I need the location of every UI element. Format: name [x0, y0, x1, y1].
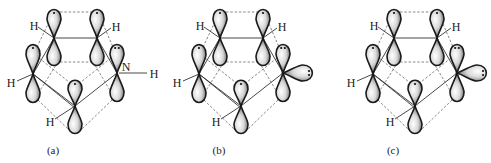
- unpaired-electron-dot: [32, 47, 34, 49]
- panel-label: (c): [387, 144, 400, 157]
- unpaired-electron-dot: [74, 83, 76, 85]
- electron-pair-dot: [482, 74, 484, 76]
- p-orbital-bottom-lobe: [90, 38, 104, 66]
- heteroatom-label: N: [122, 60, 131, 74]
- p-orbital-left: [192, 45, 206, 103]
- electron-pair-dot: [482, 70, 484, 72]
- hydrogen-label-bottom: H: [46, 115, 55, 129]
- electron-pair-dot: [284, 47, 286, 49]
- sp2-lone-pair-orbital: [457, 65, 486, 81]
- p-orbital-top-lobe: [450, 45, 464, 73]
- unpaired-electron-dot: [53, 12, 55, 14]
- p-orbital-bottom-lobe: [256, 38, 270, 66]
- hydrogen-label-bottom: H: [386, 115, 395, 129]
- unpaired-electron-dot: [436, 12, 438, 14]
- hydrogen-label-top-left: H: [370, 19, 379, 33]
- overlap-dash: [379, 62, 398, 92]
- hydrogen-label-top-right: H: [112, 20, 121, 34]
- p-orbital-top-right: [90, 10, 104, 66]
- overlap-dash: [39, 62, 58, 92]
- overlap-dash: [93, 62, 111, 92]
- sp2-lobe: [457, 65, 486, 81]
- electron-pair-dot: [458, 47, 460, 49]
- hydrogen-label-left: H: [347, 76, 356, 90]
- electron-pair-dot: [308, 70, 310, 72]
- electron-pair-dot: [114, 47, 116, 49]
- electron-pair-dot: [454, 47, 456, 49]
- unpaired-electron-dot: [262, 12, 264, 14]
- electron-pair-dot: [118, 47, 120, 49]
- panel-b: HHHH(b): [173, 10, 313, 157]
- p-orbital-bottom: [234, 80, 248, 133]
- p-orbital-bottom-lobe: [234, 106, 248, 134]
- p-orbital-top-right: [430, 10, 444, 66]
- hydrogen-label-top-right: H: [452, 20, 461, 34]
- electron-pair-dot: [308, 74, 310, 76]
- panel-label: (b): [213, 144, 226, 157]
- unpaired-electron-dot: [219, 12, 221, 14]
- p-orbital-top-left: [213, 10, 227, 66]
- unpaired-electron-dot: [96, 12, 98, 14]
- n-hydrogen-label: H: [150, 67, 159, 81]
- unpaired-electron-dot: [198, 47, 200, 49]
- unpaired-electron-dot: [372, 47, 374, 49]
- sp2-lobe: [283, 65, 312, 81]
- p-orbital-top-left: [387, 10, 401, 66]
- p-orbital-bottom-lobe: [47, 38, 61, 66]
- p-orbital-top-left: [47, 10, 61, 66]
- hydrogen-label-top-left: H: [30, 19, 39, 33]
- p-orbital-left: [26, 45, 40, 103]
- unpaired-electron-dot: [240, 83, 242, 85]
- overlap-dash: [433, 62, 451, 92]
- overlap-dash: [205, 62, 224, 92]
- hydrogen-label-bottom: H: [212, 115, 221, 129]
- overlap-dash: [421, 100, 452, 130]
- overlap-dash: [247, 100, 278, 130]
- sp2-lone-pair-orbital: [283, 65, 312, 81]
- p-orbital-bottom-lobe: [68, 106, 82, 134]
- panel-a: NHHHHH(a): [7, 10, 159, 157]
- overlap-dash: [259, 62, 277, 92]
- hydrogen-label-top-left: H: [196, 19, 205, 33]
- panel-c: HHHH(c): [347, 10, 487, 157]
- overlap-dash: [81, 100, 112, 130]
- p-orbital-bottom-lobe: [213, 38, 227, 66]
- p-orbital-bottom-lobe: [430, 38, 444, 66]
- orbital-diagram-figure: NHHHHH(a)HHHH(b)HHHH(c): [0, 0, 491, 163]
- p-orbital-bottom-lobe: [387, 38, 401, 66]
- panel-label: (a): [47, 144, 60, 157]
- p-orbital-bottom: [68, 80, 82, 133]
- hydrogen-label-left: H: [7, 76, 16, 90]
- p-orbital-top-lobe: [276, 45, 290, 73]
- p-orbital-bottom-lobe: [408, 106, 422, 134]
- unpaired-electron-dot: [393, 12, 395, 14]
- electron-pair-dot: [280, 47, 282, 49]
- p-orbital-left: [366, 45, 380, 103]
- hydrogen-label-top-right: H: [278, 20, 287, 34]
- hydrogen-label-left: H: [173, 76, 182, 90]
- p-orbital-bottom: [408, 80, 422, 133]
- unpaired-electron-dot: [414, 83, 416, 85]
- p-orbital-top-right: [256, 10, 270, 66]
